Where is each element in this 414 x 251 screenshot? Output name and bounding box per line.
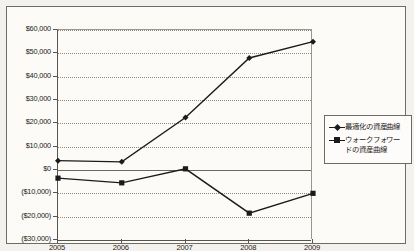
y-tick-label: $50,000 xyxy=(7,47,51,56)
legend: 最適化の資産曲線 ウォークフォワードの資産曲線 xyxy=(324,115,412,164)
legend-label-optimized: 最適化の資産曲線 xyxy=(345,122,407,132)
y-tick-label: $20,000 xyxy=(7,117,51,126)
y-tick-label: $30,000 xyxy=(7,94,51,103)
axis-baseline xyxy=(58,240,311,241)
series-line-diamond xyxy=(58,42,313,162)
y-tick-label: ($30,000) xyxy=(7,234,51,243)
x-tick-label: 2009 xyxy=(292,243,332,251)
x-tick-label: 2005 xyxy=(37,243,77,251)
data-point-marker xyxy=(310,191,315,196)
x-tick-label: 2006 xyxy=(101,243,141,251)
x-tick-label: 2008 xyxy=(228,243,268,251)
data-point-marker xyxy=(55,158,61,164)
x-tick-label: 2007 xyxy=(165,243,205,251)
plot-area xyxy=(57,29,312,239)
y-tick-label: ($20,000) xyxy=(7,211,51,220)
figure-inner: $60,000$50,000$40,000$30,000$20,000$10,0… xyxy=(7,7,405,243)
data-point-marker xyxy=(247,211,252,216)
data-point-marker xyxy=(183,166,188,171)
y-tick-label: $60,000 xyxy=(7,24,51,33)
series-line-square xyxy=(58,169,313,213)
chart-page: $60,000$50,000$40,000$30,000$20,000$10,0… xyxy=(0,0,414,251)
data-point-marker xyxy=(55,176,60,181)
square-marker-icon xyxy=(329,136,345,145)
y-tick-label: $0 xyxy=(7,164,51,173)
data-point-marker xyxy=(310,39,316,45)
y-tick-label: $10,000 xyxy=(7,141,51,150)
diamond-marker-icon xyxy=(329,123,345,132)
legend-item-optimized: 最適化の資産曲線 xyxy=(329,122,407,132)
y-tick-label: ($10,000) xyxy=(7,187,51,196)
data-point-marker xyxy=(119,180,124,185)
y-tick-label: $40,000 xyxy=(7,71,51,80)
series-lines xyxy=(58,30,313,240)
legend-label-walkforward: ウォークフォワードの資産曲線 xyxy=(345,135,407,155)
figure-frame: $60,000$50,000$40,000$30,000$20,000$10,0… xyxy=(6,6,406,244)
legend-item-walkforward: ウォークフォワードの資産曲線 xyxy=(329,135,407,155)
